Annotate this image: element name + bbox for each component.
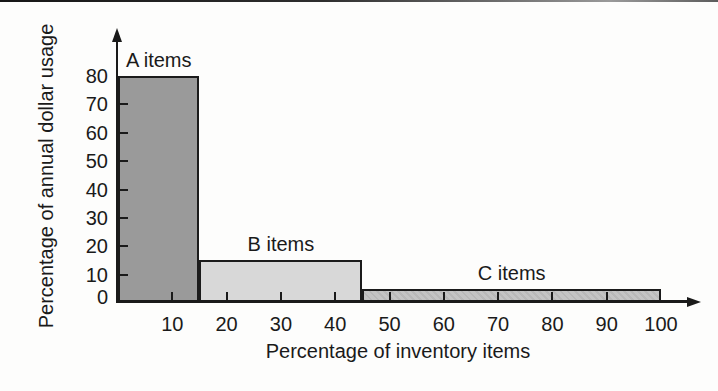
x-tick-10 (171, 292, 173, 302)
y-tick-20 (117, 245, 128, 247)
y-tick-label-30: 30 (68, 208, 108, 228)
x-tick-label-20: 20 (215, 313, 237, 335)
y-tick-label-10: 10 (68, 265, 108, 285)
bar-label-a-items: A items (126, 49, 192, 71)
y-tick-label-80: 80 (68, 66, 108, 86)
y-tick-label-60: 60 (68, 123, 108, 143)
x-tick-label-10: 10 (161, 313, 183, 335)
x-tick-60 (443, 292, 445, 302)
abc-analysis-chart: Percentage of annual dollar usage Percen… (0, 0, 718, 391)
x-tick-label-100: 100 (644, 313, 677, 335)
scan-artifact-line (0, 0, 718, 2)
y-tick-label-0: 0 (68, 287, 108, 307)
x-axis-title: Percentage of inventory items (118, 340, 678, 363)
bar-label-b-items: B items (248, 233, 315, 255)
bar-label-c-items: C items (478, 262, 546, 284)
y-tick-50 (117, 160, 128, 162)
y-tick-label-40: 40 (68, 180, 108, 200)
x-tick-50 (389, 292, 391, 302)
x-tick-30 (280, 292, 282, 302)
y-axis-arrow-icon (112, 28, 122, 42)
x-tick-label-50: 50 (378, 313, 400, 335)
y-tick-70 (117, 103, 128, 105)
y-tick-60 (117, 132, 128, 134)
x-tick-label-40: 40 (324, 313, 346, 335)
x-tick-20 (226, 292, 228, 302)
y-tick-label-20: 20 (68, 236, 108, 256)
y-axis-line (116, 42, 118, 303)
x-tick-70 (497, 292, 499, 302)
x-tick-label-30: 30 (270, 313, 292, 335)
y-tick-40 (117, 189, 128, 191)
y-tick-label-70: 70 (68, 94, 108, 114)
x-axis-line (116, 300, 688, 303)
bar-a-items (118, 76, 199, 303)
y-tick-10 (117, 274, 128, 276)
x-tick-label-80: 80 (541, 313, 563, 335)
x-axis-arrow-icon (687, 297, 701, 307)
x-tick-40 (334, 292, 336, 302)
x-tick-80 (551, 292, 553, 302)
y-tick-label-50: 50 (68, 151, 108, 171)
x-tick-label-90: 90 (596, 313, 618, 335)
x-tick-label-70: 70 (487, 313, 509, 335)
y-axis-title: Percentage of annual dollar usage (35, 24, 58, 329)
x-tick-label-60: 60 (433, 313, 455, 335)
x-tick-90 (606, 292, 608, 302)
y-tick-30 (117, 217, 128, 219)
